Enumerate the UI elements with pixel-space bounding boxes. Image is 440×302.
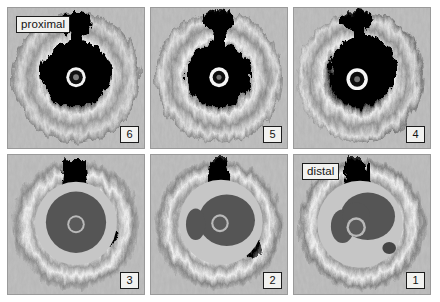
panel-position-label: distal (302, 163, 339, 180)
panel-number-label: 6 (120, 126, 139, 143)
calcium-shadow-1 (382, 242, 396, 254)
secondary-lumen-region-2 (186, 208, 205, 240)
panel-number-label: 1 (406, 272, 425, 289)
ivus-panel-1[interactable]: distal 1 (293, 154, 431, 296)
catheter-core-3 (69, 217, 83, 231)
panel-number-label: 2 (263, 272, 282, 289)
catheter-core-2 (213, 216, 226, 229)
panel-number-label: 4 (406, 126, 425, 143)
ivus-panel-5[interactable]: 5 (150, 7, 288, 149)
ivus-panel-4[interactable]: 4 (293, 7, 431, 149)
ivus-figure: proximal 6 (0, 0, 440, 302)
panel-number-label: 3 (120, 272, 139, 289)
panel-number-label: 5 (263, 126, 282, 143)
catheter-core-1 (349, 219, 364, 234)
ivus-panel-3[interactable]: 3 (7, 154, 145, 296)
ivus-panel-6[interactable]: proximal 6 (7, 7, 145, 149)
panel-grid: proximal 6 (7, 7, 431, 295)
ivus-panel-2[interactable]: 2 (150, 154, 288, 296)
panel-position-label: proximal (16, 16, 70, 33)
